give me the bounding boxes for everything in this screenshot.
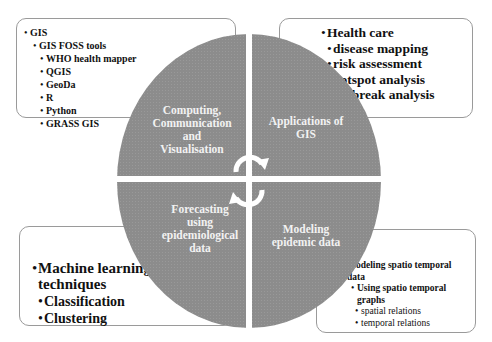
quadrant-label-applications: Applications of GIS [256,115,356,141]
label-line: epidemic data [258,236,354,249]
label-line: Communication [142,117,242,130]
label-line: using [156,216,244,229]
label-line: and [142,130,242,143]
label-line: GIS [256,128,356,141]
quadrant-label-forecasting: Forecasting using epidemiological data [156,203,244,255]
horizontal-divider [110,176,390,182]
label-line: Visualisation [142,143,242,156]
label-line: Applications of [256,115,356,128]
label-line: epidemiological [156,229,244,242]
label-line: data [156,242,244,255]
label-line: Computing, [142,104,242,117]
quadrant-label-modeling: Modeling epidemic data [258,223,354,249]
quadrant-label-computing: Computing, Communication and Visualisati… [142,104,242,156]
label-line: Modeling [258,223,354,236]
cycle-diagram [0,0,492,342]
label-line: Forecasting [156,203,244,216]
